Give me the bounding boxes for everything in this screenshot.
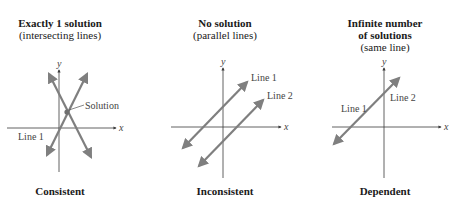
line-descending	[49, 74, 91, 157]
x-axis-label: x	[283, 121, 289, 132]
line-1-label: Line 1	[251, 72, 277, 83]
line-2-label: Line 2	[390, 92, 416, 103]
line-1-label: Line 1	[341, 103, 367, 114]
x-axis-label: x	[443, 121, 449, 132]
line-2	[199, 100, 263, 166]
y-axis-label: y	[381, 56, 387, 67]
x-axis-label: x	[118, 122, 124, 133]
solution-label: Solution	[85, 100, 119, 111]
line-2-label: Line 2	[267, 90, 293, 101]
graph-same-line: x y Line 1 Line 2	[332, 56, 449, 178]
line-1-label: Line 1	[18, 131, 44, 142]
y-axis-label: y	[220, 56, 226, 67]
graph-parallel: x y Line 1 Line 2	[171, 56, 293, 178]
graph-intersecting: x y Solution Line 1	[7, 58, 124, 172]
line-1	[183, 82, 247, 148]
solution-point	[64, 109, 69, 114]
y-axis-label: y	[56, 58, 62, 69]
graphs-canvas: x y Solution Line 1 x y Line 1 Line 2 x …	[0, 0, 459, 214]
